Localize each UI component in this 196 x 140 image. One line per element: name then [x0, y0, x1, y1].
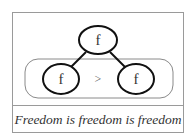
- comparison-operator: >: [95, 72, 102, 86]
- top-node-label: f: [96, 32, 101, 48]
- left-node-label: f: [59, 71, 64, 87]
- caption: Freedom is freedom is freedom: [12, 106, 184, 133]
- tree-diagram: f f > f: [0, 0, 196, 105]
- right-node-label: f: [134, 71, 139, 87]
